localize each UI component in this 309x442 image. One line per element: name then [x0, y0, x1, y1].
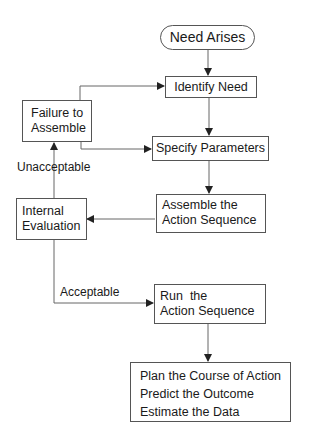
node-specify-parameters-label: Specify Parameters: [156, 141, 265, 156]
node-assemble-action-sequence: Assemble the Action Sequence: [156, 194, 266, 233]
node-outcome-line-2: Predict the Outcome: [140, 385, 290, 403]
node-specify-parameters: Specify Parameters: [152, 136, 269, 161]
node-outcome-line-1: Plan the Course of Action: [140, 367, 290, 385]
node-run-line-2: Action Sequence: [160, 304, 265, 319]
node-internal-evaluation: Internal Evaluation: [16, 198, 87, 240]
node-evaluation-line-2: Evaluation: [22, 219, 86, 234]
node-identify-need: Identify Need: [165, 76, 257, 98]
node-failure-line-2: Assemble: [31, 121, 91, 136]
node-plan-predict-estimate: Plan the Course of Action Predict the Ou…: [130, 362, 291, 422]
edge-label-unacceptable: Unacceptable: [17, 160, 90, 174]
node-failure-to-assemble: Failure to Assemble: [22, 100, 92, 142]
node-need-arises-label: Need Arises: [170, 29, 245, 45]
node-assemble-line-1: Assemble the: [162, 198, 265, 213]
edge-label-acceptable: Acceptable: [60, 285, 119, 299]
node-identify-need-label: Identify Need: [174, 80, 248, 95]
node-outcome-line-3: Estimate the Data: [140, 403, 290, 421]
node-evaluation-line-1: Internal: [22, 204, 86, 219]
flowchart-diagram: Need Arises Identify Need Failure to Ass…: [0, 0, 309, 442]
node-run-action-sequence: Run the Action Sequence: [154, 284, 266, 324]
node-failure-line-1: Failure to: [31, 106, 91, 121]
node-assemble-line-2: Action Sequence: [162, 213, 265, 228]
node-need-arises: Need Arises: [160, 25, 255, 50]
node-run-line-1: Run the: [160, 289, 265, 304]
